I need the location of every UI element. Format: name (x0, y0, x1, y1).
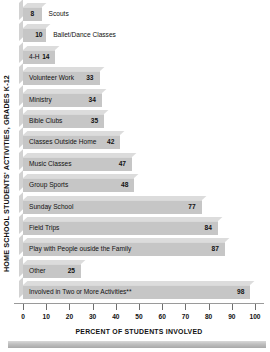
bar-value-label: 77 (188, 201, 195, 212)
bar-value-label: 8 (31, 8, 35, 19)
bar-value-label: 98 (237, 286, 244, 297)
bar-row[interactable]: Group Sports48 (23, 174, 134, 191)
x-axis-tick-label: 50 (135, 312, 142, 321)
bar-category-label: Volunteer Work (29, 72, 74, 83)
bar-category-label: Music Classes (29, 158, 72, 169)
bar-category-label: Ballet/Dance Classes (53, 29, 116, 40)
bar-value-label: 47 (119, 158, 126, 169)
x-axis-tick (162, 304, 163, 310)
x-axis-tick (69, 304, 70, 310)
bar-category-label: 4-H (29, 51, 40, 62)
x-axis-tick (232, 304, 233, 310)
x-axis-tick (209, 304, 210, 310)
bar-row[interactable]: 8Scouts (23, 3, 42, 20)
x-axis-title: PERCENT OF STUDENTS INVOLVED (14, 328, 264, 335)
bar-row[interactable]: Music Classes47 (23, 153, 132, 170)
y-axis-title: HOME SCHOOL STUDENTS' ACTIVITIES, GRADES… (0, 48, 12, 298)
x-axis-tick-label: 0 (21, 312, 25, 321)
x-axis-tick (255, 304, 256, 310)
x-axis-tick-label: 30 (89, 312, 96, 321)
plot-area: 8Scouts10Ballet/Dance Classes4-H14Volunt… (14, 0, 270, 305)
bar-row[interactable]: Ministry34 (23, 89, 102, 106)
x-axis-tick-label: 20 (66, 312, 73, 321)
bar-category-label: Sunday School (29, 201, 73, 212)
bar-value-label: 10 (35, 29, 42, 40)
bar-row[interactable]: 10Ballet/Dance Classes (23, 24, 46, 41)
y-axis-title-text: HOME SCHOOL STUDENTS' ACTIVITIES, GRADES… (2, 75, 11, 272)
x-axis-tick-label: 90 (228, 312, 235, 321)
footer-band (8, 341, 266, 348)
x-axis-tick-label: 10 (43, 312, 50, 321)
bar-category-label: Other (29, 265, 46, 276)
bar-row[interactable]: Play with People ouside the Family87 (23, 238, 225, 255)
bar-category-label: Bible Clubs (29, 115, 62, 126)
bar-category-label: Play with People ouside the Family (29, 243, 131, 254)
x-axis-tick-label: 70 (182, 312, 189, 321)
x-axis-tick (139, 304, 140, 310)
bar-value-label: 42 (107, 136, 114, 147)
chart-figure: HOME SCHOOL STUDENTS' ACTIVITIES, GRADES… (0, 0, 270, 352)
bar-category-label: Group Sports (29, 179, 68, 190)
bar-row[interactable]: Sunday School77 (23, 196, 202, 213)
bar-value-label: 33 (86, 72, 93, 83)
x-axis-tick-label: 100 (249, 312, 260, 321)
bar-value-label: 35 (91, 115, 98, 126)
x-axis-tick-label: 60 (159, 312, 166, 321)
x-axis-tick (185, 304, 186, 310)
x-axis-tick-label: 40 (112, 312, 119, 321)
bar-row[interactable]: Volunteer Work33 (23, 67, 100, 84)
bar-value-label: 48 (121, 179, 128, 190)
bar-row[interactable]: Other25 (23, 260, 81, 277)
bar-category-label: Involved in Two or More Activities** (29, 286, 132, 297)
bar-value-label: 34 (89, 94, 96, 105)
x-axis-tick (23, 304, 24, 310)
bar-category-label: Scouts (49, 8, 69, 19)
bar-row[interactable]: Bible Clubs35 (23, 110, 104, 127)
x-axis-tick (93, 304, 94, 310)
bar-row[interactable]: Field Trips84 (23, 217, 218, 234)
x-axis-tick-label: 80 (205, 312, 212, 321)
x-axis-tick (46, 304, 47, 310)
bar-value-label: 25 (68, 265, 75, 276)
bar-category-label: Field Trips (29, 222, 59, 233)
bar-category-label: Ministry (29, 94, 52, 105)
bar-value-label: 14 (42, 51, 49, 62)
bar-row[interactable]: Classes Outside Home42 (23, 131, 120, 148)
x-axis-tick (116, 304, 117, 310)
bar-category-label: Classes Outside Home (29, 136, 96, 147)
bar-value-label: 84 (205, 222, 212, 233)
bar-row[interactable]: Involved in Two or More Activities**98 (23, 281, 250, 298)
bar-row[interactable]: 4-H14 (23, 46, 55, 63)
bar-value-label: 87 (211, 243, 218, 254)
